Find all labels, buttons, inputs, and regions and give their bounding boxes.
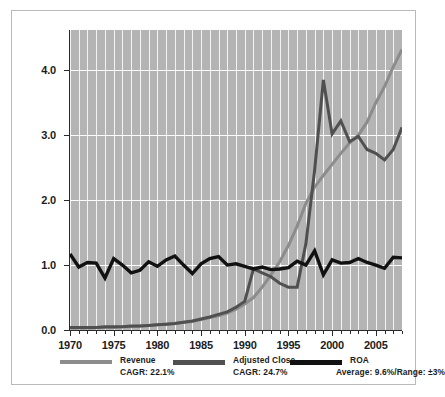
y-tick-mark xyxy=(64,70,69,71)
y-tick-mark xyxy=(64,135,69,136)
x-tick-mark-minor xyxy=(175,331,176,334)
x-tick-mark-minor xyxy=(184,331,185,334)
x-tick-mark-minor xyxy=(192,331,193,334)
x-tick-mark-minor xyxy=(280,331,281,334)
x-tick-mark-minor xyxy=(166,331,167,334)
legend-swatch-icon xyxy=(60,360,112,364)
x-tick-mark-minor xyxy=(350,331,351,334)
plot-area xyxy=(70,30,402,330)
legend-label: Revenue xyxy=(120,356,156,365)
x-tick-mark-minor xyxy=(385,331,386,334)
legend-sublabel: CAGR: 22.1% xyxy=(120,368,175,377)
plot-canvas xyxy=(70,30,402,330)
x-tick-mark-minor xyxy=(262,331,263,334)
y-tick-mark xyxy=(64,265,69,266)
y-axis-line xyxy=(69,30,70,331)
x-tick-mark-minor xyxy=(253,331,254,334)
x-tick-label: 1975 xyxy=(91,340,137,351)
x-tick-mark-minor xyxy=(122,331,123,334)
x-tick-label: 1985 xyxy=(178,340,224,351)
x-tick-label: 1970 xyxy=(47,340,93,351)
x-tick-mark-minor xyxy=(358,331,359,334)
x-tick-mark-minor xyxy=(87,331,88,334)
x-tick-mark-major xyxy=(157,331,158,336)
legend-swatch-icon xyxy=(173,360,225,365)
y-tick-mark xyxy=(64,200,69,201)
y-tick-label: 2.0 xyxy=(26,195,56,206)
x-tick-label: 1990 xyxy=(222,340,268,351)
x-tick-mark-minor xyxy=(149,331,150,334)
x-tick-mark-major xyxy=(376,331,377,336)
x-tick-mark-minor xyxy=(96,331,97,334)
y-tick-label: 0.0 xyxy=(26,325,56,336)
x-tick-mark-minor xyxy=(341,331,342,334)
x-tick-mark-minor xyxy=(323,331,324,334)
x-tick-mark-minor xyxy=(210,331,211,334)
legend-sublabel: Average: 9.6%/Range: ±3% xyxy=(336,368,445,377)
x-tick-mark-minor xyxy=(140,331,141,334)
legend-label: Adjusted Close xyxy=(233,356,295,365)
x-tick-mark-major xyxy=(201,331,202,336)
x-tick-mark-major xyxy=(70,331,71,336)
legend-sublabel: CAGR: 24.7% xyxy=(233,368,288,377)
x-tick-mark-major xyxy=(288,331,289,336)
y-tick-label: 1.0 xyxy=(26,260,56,271)
x-tick-mark-minor xyxy=(219,331,220,334)
y-tick-label: 3.0 xyxy=(26,130,56,141)
chart-legend: RevenueCAGR: 22.1%Adjusted CloseCAGR: 24… xyxy=(60,356,400,382)
x-tick-mark-major xyxy=(245,331,246,336)
x-tick-mark-minor xyxy=(297,331,298,334)
x-tick-label: 2005 xyxy=(353,340,399,351)
gridlines xyxy=(70,30,402,330)
x-tick-mark-major xyxy=(114,331,115,336)
legend-label: ROA xyxy=(350,356,369,365)
y-tick-label: 4.0 xyxy=(26,65,56,76)
x-tick-mark-minor xyxy=(367,331,368,334)
x-tick-mark-minor xyxy=(402,331,403,334)
x-tick-label: 1980 xyxy=(134,340,180,351)
x-tick-mark-major xyxy=(332,331,333,336)
x-tick-mark-minor xyxy=(236,331,237,334)
x-tick-mark-minor xyxy=(131,331,132,334)
legend-swatch-icon xyxy=(290,360,342,365)
x-tick-label: 2000 xyxy=(309,340,355,351)
x-tick-mark-minor xyxy=(79,331,80,334)
x-tick-mark-minor xyxy=(306,331,307,334)
x-tick-mark-minor xyxy=(105,331,106,334)
x-tick-mark-minor xyxy=(271,331,272,334)
x-tick-mark-minor xyxy=(393,331,394,334)
y-tick-mark xyxy=(64,330,69,331)
x-tick-mark-minor xyxy=(227,331,228,334)
x-tick-mark-minor xyxy=(315,331,316,334)
x-tick-label: 1995 xyxy=(265,340,311,351)
